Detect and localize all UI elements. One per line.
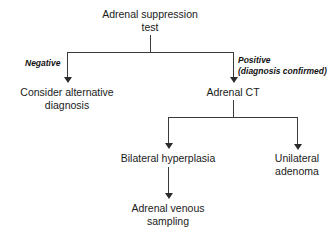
node-unilateral-adenoma-line1: Unilateral: [258, 152, 335, 165]
connector-positive-drop: [233, 52, 234, 77]
connector-negative-drop: [67, 52, 68, 77]
node-bilateral-hyperplasia-line1: Bilateral hyperplasia: [110, 152, 226, 165]
node-consider-alternative-diagnosis-line1: Consider alternative: [7, 86, 127, 99]
node-unilateral-adenoma: Unilateral adenoma: [258, 152, 335, 178]
connector-bilateral-drop: [168, 117, 169, 143]
node-consider-alternative-diagnosis: Consider alternative diagnosis: [7, 86, 127, 112]
connector-root-split-bar: [67, 52, 234, 53]
edge-label-negative: Negative: [25, 58, 65, 69]
arrowhead-avs: [165, 193, 173, 199]
arrowhead-negative: [64, 77, 72, 83]
node-adrenal-venous-sampling-line2: sampling: [110, 215, 226, 228]
arrowhead-bilateral: [165, 143, 173, 149]
node-adrenal-suppression-test: Adrenal suppression test: [82, 8, 218, 34]
connector-unilateral-drop: [297, 117, 298, 144]
edge-label-positive: Positive (diagnosis confirmed): [238, 55, 333, 76]
arrowhead-positive: [230, 77, 238, 83]
edge-label-negative-line1: Negative: [25, 58, 65, 69]
arrowhead-unilateral: [294, 144, 302, 150]
node-consider-alternative-diagnosis-line2: diagnosis: [7, 99, 127, 112]
connector-avs-drop: [168, 167, 169, 193]
connector-root-stem: [150, 35, 151, 53]
connector-adrenal-ct-split-bar: [168, 117, 298, 118]
connector-adrenal-ct-stem: [233, 100, 234, 118]
node-adrenal-ct: Adrenal CT: [183, 86, 283, 99]
node-adrenal-venous-sampling-line1: Adrenal venous: [110, 202, 226, 215]
edge-label-positive-line2: (diagnosis confirmed): [238, 66, 333, 77]
node-adrenal-ct-line1: Adrenal CT: [183, 86, 283, 99]
node-adrenal-venous-sampling: Adrenal venous sampling: [110, 202, 226, 228]
edge-label-positive-line1: Positive: [238, 55, 333, 66]
flowchart-canvas: Adrenal suppression test Negative Positi…: [0, 0, 335, 234]
node-unilateral-adenoma-line2: adenoma: [258, 165, 335, 178]
node-bilateral-hyperplasia: Bilateral hyperplasia: [110, 152, 226, 165]
node-adrenal-suppression-test-line1: Adrenal suppression: [82, 8, 218, 21]
node-adrenal-suppression-test-line2: test: [82, 21, 218, 34]
